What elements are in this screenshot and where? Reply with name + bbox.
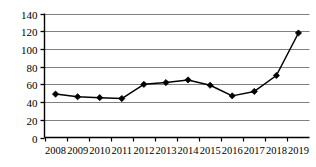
y-axis-tick-label: 0 [32,133,38,145]
y-axis-tick-label: 100 [21,44,38,56]
y-axis-tick-label: 120 [21,26,38,38]
x-axis-tick-label: 2011 [111,145,132,156]
x-axis-tick-label: 2009 [67,145,88,156]
x-axis-tick-label: 2012 [133,145,154,156]
x-axis-tick-label: 2017 [244,145,265,156]
x-axis-tick-label: 2015 [200,145,221,156]
y-axis-tick-label: 40 [27,97,39,109]
y-axis-tick-label: 20 [27,115,39,127]
x-axis-tick-label: 2013 [155,145,176,156]
line-chart-figure: 020406080100120140 200820092010201120122… [0,0,316,167]
x-axis-tick-label: 2018 [266,145,287,156]
x-axis-tick-labels-group: 2008200920102011201220132014201520162017… [45,145,309,156]
x-axis-tick-label: 2014 [178,145,200,156]
x-axis-tick-label: 2016 [222,145,243,156]
y-axis-tick-label: 140 [21,9,38,21]
x-axis-tick-label: 2010 [89,145,110,156]
y-axis-tick-label: 80 [27,62,39,74]
chart-canvas: 020406080100120140 200820092010201120122… [0,0,316,167]
x-axis-tick-label: 2019 [288,145,309,156]
y-axis-tick-label: 60 [27,79,39,91]
x-axis-tick-label: 2008 [45,145,66,156]
